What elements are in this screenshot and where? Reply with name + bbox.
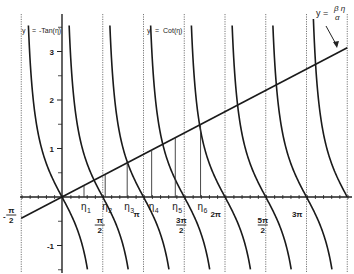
eta-label: η — [124, 201, 130, 212]
eta-subscript: 5 — [178, 207, 182, 214]
x-tick-numerator: 3π — [176, 216, 187, 225]
eta-subscript: 6 — [204, 207, 208, 214]
legend-line-lhs: y = — [316, 8, 328, 18]
legend-neg-tan-eq: = — [32, 27, 36, 34]
legend-neg-tan-y: y — [22, 27, 26, 35]
eta-subscript: 1 — [87, 207, 91, 214]
x-tick-sign: - — [3, 212, 6, 221]
x-tick-numerator: π — [97, 216, 103, 225]
eta-subscript: 2 — [108, 207, 112, 214]
chart: 321-1 η1η2η3η4η5η6 -π2π2π3π22π5π23π y = … — [0, 0, 354, 274]
neg-tan-branch — [28, 26, 87, 270]
x-tick-denominator: 2 — [9, 216, 14, 225]
eta-subscript: 4 — [155, 207, 159, 214]
y-tick-label: 2 — [50, 96, 55, 105]
legend-line-den: α — [335, 13, 340, 22]
legend-line-num: β η — [333, 4, 346, 13]
eta-label: η — [172, 201, 178, 212]
y-tick-label: -1 — [47, 242, 55, 251]
cot-branch — [313, 19, 347, 197]
x-tick-label: 3π — [292, 210, 303, 219]
intersection-markers: η1η2η3η4η5η6 — [81, 124, 208, 214]
x-tick-numerator: 5π — [257, 216, 268, 225]
x-tick-denominator: 2 — [179, 226, 184, 235]
eta-label: η — [198, 201, 204, 212]
legend-cot-eq: = — [155, 27, 159, 34]
y-ticks: 321-1 — [47, 27, 62, 270]
eta-label: η — [102, 201, 108, 212]
x-tick-denominator: 2 — [98, 226, 103, 235]
x-tick-label: 2π — [210, 210, 221, 219]
arrow-head-icon — [333, 41, 339, 48]
eta-label: η — [149, 201, 155, 212]
eta-label: η — [81, 201, 87, 212]
legend-cot: y = Cot(η) — [147, 27, 182, 35]
x-tick-label: π — [133, 210, 139, 219]
legend-line: y = β η α — [316, 4, 346, 48]
legend-cot-y: y — [147, 27, 151, 35]
x-tick-denominator: 2 — [261, 226, 266, 235]
y-tick-label: 1 — [50, 145, 55, 154]
legend-neg-tan-rhs: -Tan(η) — [39, 27, 61, 35]
legend-cot-rhs: Cot(η) — [163, 27, 182, 35]
x-tick-numerator: π — [8, 206, 14, 215]
y-tick-label: 3 — [50, 48, 55, 57]
